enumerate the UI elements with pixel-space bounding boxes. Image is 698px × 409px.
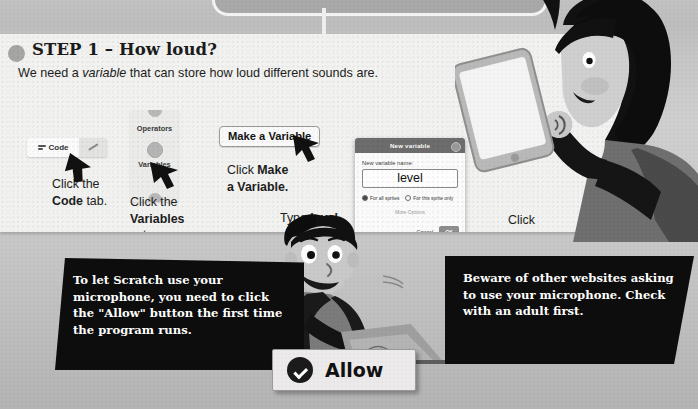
page-background: STEP 1 – How loud? We need a variable th… [0, 0, 698, 409]
dialog-title: New variable [390, 142, 430, 149]
caption-make-variable: Click Make a Variable. [227, 162, 288, 195]
caption-vars-line1: Click the [130, 194, 184, 211]
dialog-body: New variable name: level For all sprites… [355, 153, 465, 215]
dialog-title-bar: New variable [355, 138, 465, 153]
step-subtitle: We need a variable that can store how lo… [18, 66, 378, 80]
note-allow-microphone: To let Scratch use your microphone, you … [55, 258, 304, 370]
scope-radio-group: For all sprites For this sprite only [362, 195, 458, 201]
radio-for-all-sprites[interactable]: For all sprites [362, 195, 399, 201]
radio-for-all-sprites-label: For all sprites [370, 196, 399, 201]
allow-button-label: Allow [325, 359, 383, 381]
palette-item-operators[interactable]: Operators [130, 124, 179, 134]
caption-vars-line3: category. [130, 227, 184, 232]
step-subtitle-pre: We need a [18, 66, 82, 80]
allow-button[interactable]: Allow [272, 349, 416, 391]
note-beware-websites: Beware of other websites asking to use y… [445, 256, 694, 364]
step-subtitle-emphasis: variable [82, 66, 126, 80]
variable-name-input[interactable]: level [362, 169, 458, 188]
caption-code-bold: Code [52, 194, 83, 208]
radio-unselected-icon [405, 195, 411, 201]
caption-variables-category: Click the Variables category. [130, 194, 184, 232]
caption-vars-bold: Variables [130, 212, 184, 226]
palette-item-partial-above [148, 110, 162, 117]
step-subtitle-post: that can store how loud different sounds… [126, 66, 378, 80]
paintbrush-icon [88, 144, 99, 152]
radio-for-this-sprite-only-label: For this sprite only [413, 196, 453, 201]
blocks-icon [38, 144, 46, 151]
caption-code-rest: tab. [83, 194, 107, 208]
girl-with-tablet-illustration [455, 0, 698, 242]
caption-make-pre: Click [227, 163, 257, 177]
step-bullet-dot [8, 45, 25, 62]
check-circle-icon [287, 357, 313, 383]
tab-code-label: Code [49, 143, 69, 152]
variable-name-value: level [397, 172, 423, 185]
radio-for-this-sprite-only[interactable]: For this sprite only [405, 195, 453, 201]
variable-name-label: New variable name: [362, 160, 458, 166]
radio-selected-icon [362, 195, 368, 201]
page-title: STEP 1 – How loud? [32, 40, 217, 59]
caption-make-bold2: a Variable. [227, 180, 288, 194]
caption-make-bold1: Make [257, 163, 288, 177]
palette-item-operators-label: Operators [130, 124, 179, 134]
